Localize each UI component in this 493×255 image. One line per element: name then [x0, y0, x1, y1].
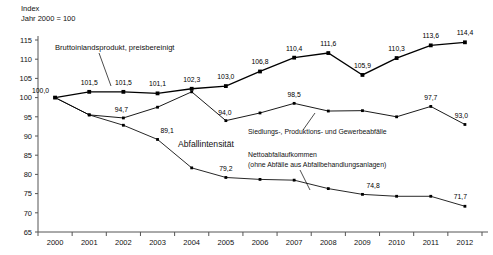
data-value-label: 114,4 [457, 29, 474, 36]
annotation-leader-lines [99, 53, 315, 190]
data-value-label: 111,6 [320, 40, 336, 47]
x-tick-label: 2003 [149, 238, 166, 247]
y-tick-label: 85 [24, 151, 32, 160]
chart-figure: Index Jahr 2000 = 100 115110105100959085… [0, 0, 493, 255]
data-point [258, 70, 262, 74]
data-point [293, 102, 296, 105]
data-value-label: 79,2 [219, 165, 232, 172]
data-value-label: 98,5 [288, 91, 301, 98]
data-point [224, 84, 228, 88]
data-point [156, 138, 159, 141]
data-value-label: 101,1 [149, 80, 166, 87]
data-point [293, 179, 296, 182]
data-point [395, 195, 398, 198]
data-point [327, 110, 330, 113]
annotation-net-waste-line2: (ohne Abfälle aus Abfallbehandlungsanlag… [248, 161, 386, 169]
data-point [224, 119, 227, 122]
data-point [361, 73, 365, 77]
y-tick-label: 100 [19, 93, 32, 102]
data-point [122, 124, 125, 127]
data-point [429, 43, 433, 47]
chart-axes [35, 36, 488, 236]
data-value-label: 110,4 [286, 45, 303, 52]
data-point [463, 40, 467, 44]
x-tick-label: 2001 [81, 238, 98, 247]
data-point [259, 112, 262, 115]
data-point [190, 90, 193, 93]
data-value-label: 89,1 [161, 127, 174, 134]
x-axis-tick-labels: 2000200120022003200420052006200720082009… [47, 238, 474, 247]
leader-line [99, 53, 111, 86]
data-point [361, 193, 364, 196]
y-tick-label: 105 [19, 74, 32, 83]
data-point [88, 113, 91, 116]
x-tick-label: 2000 [47, 238, 64, 247]
data-value-label: 113,6 [423, 32, 440, 39]
x-tick-label: 2004 [183, 238, 200, 247]
annotation-gdp: Bruttoinlandsprodukt, preisbereinigt [55, 43, 175, 52]
data-point [121, 90, 125, 94]
data-value-label: 71,7 [454, 193, 467, 200]
y-tick-label: 110 [20, 55, 32, 64]
data-point [464, 205, 467, 208]
data-point [464, 123, 467, 126]
data-point [190, 166, 193, 169]
y-axis-tick-labels: 11511010510095908580757065 [19, 36, 32, 237]
data-point [395, 115, 398, 118]
data-point [87, 90, 91, 94]
x-tick-label: 2011 [423, 238, 439, 247]
data-point [259, 178, 262, 181]
data-point [429, 105, 432, 108]
data-point [326, 51, 330, 55]
y-tick-label: 90 [24, 132, 32, 141]
data-point [122, 117, 125, 120]
data-value-label: 100,0 [32, 87, 49, 94]
x-tick-label: 2012 [457, 238, 474, 247]
data-point [429, 195, 432, 198]
data-value-label: 97,7 [424, 94, 437, 101]
data-value-label: 101,5 [81, 79, 98, 86]
data-value-label: 110,3 [388, 45, 405, 52]
x-tick-label: 2007 [286, 238, 303, 247]
leader-line [300, 170, 310, 190]
data-value-label: 105,9 [354, 62, 371, 69]
data-point [395, 56, 399, 60]
data-point [327, 187, 330, 190]
data-point [156, 106, 159, 109]
data-point [292, 56, 296, 60]
y-tick-label: 95 [24, 113, 32, 122]
data-value-label: 74,8 [366, 182, 379, 189]
x-tick-label: 2006 [252, 238, 269, 247]
data-point [190, 87, 194, 91]
data-value-label: 103,0 [217, 73, 234, 80]
y-tick-label: 75 [24, 189, 32, 198]
line-chart-plot: 11511010510095908580757065 2000200120022… [0, 0, 493, 255]
data-point [156, 91, 160, 95]
data-value-label: 106,8 [251, 58, 268, 65]
y-tick-label: 115 [20, 36, 32, 45]
data-value-label: 94,7 [115, 106, 128, 113]
annotation-waste-total: Siedlungs-, Produktions- und Gewerbeabfä… [248, 128, 387, 136]
x-tick-label: 2009 [354, 238, 371, 247]
data-point [224, 176, 227, 179]
data-value-label: 94,0 [218, 109, 231, 116]
data-point [361, 109, 364, 112]
x-tick-label: 2002 [115, 238, 132, 247]
data-point [54, 96, 57, 99]
y-tick-label: 80 [24, 170, 32, 179]
data-value-label: 101,5 [115, 79, 132, 86]
annotation-net-waste-line1: Nettoabfallaufkommen [248, 151, 317, 158]
x-tick-label: 2005 [218, 238, 235, 247]
x-tick-label: 2010 [388, 238, 405, 247]
y-tick-label: 70 [24, 209, 32, 218]
data-value-label: 93,0 [455, 112, 468, 119]
y-tick-label: 65 [24, 228, 32, 237]
x-tick-label: 2008 [320, 238, 337, 247]
annotation-abfallintensitaet: Abfallintensität [178, 139, 235, 149]
data-value-label: 102,3 [183, 76, 200, 83]
